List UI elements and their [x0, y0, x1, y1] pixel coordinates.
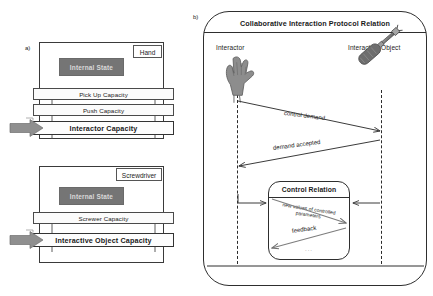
protocol-relation-title-rule: [204, 32, 426, 33]
interactive-object-capacity-screwer: Screwer Capacity: [33, 212, 174, 224]
control-relation-continuation: ...: [305, 246, 313, 252]
protocol-relation-title: Collaborative Interaction Protocol Relat…: [203, 19, 427, 28]
interactor-capacity-pick-up: Pick Up Capacity: [33, 88, 174, 100]
control-relation-title-rule: [269, 197, 349, 198]
figure-tag-b: b): [193, 14, 198, 20]
interactor-internal-state: Internal State: [59, 58, 124, 76]
interactive-object-internal-state: Internal State: [59, 187, 124, 205]
interactor-capacity-push: Push Capacity: [33, 104, 174, 116]
participant-label-interactive-object: Interactive Object: [348, 44, 400, 51]
interactive-object-name-tab: Screwdriver: [116, 168, 162, 181]
lifeline-interactive-object: [381, 90, 382, 264]
figure-tag-a: a): [25, 45, 30, 51]
interactor-capacity-main: Interactor Capacity: [33, 121, 174, 135]
control-relation-title: Control Relation: [268, 186, 350, 193]
interactor-name-tab: Hand: [133, 45, 162, 58]
lifeline-interactor: [237, 95, 238, 264]
participant-label-interactor: Interactor: [216, 44, 244, 51]
interactive-object-capacity-main: Interactive Object Capacity: [33, 233, 174, 247]
